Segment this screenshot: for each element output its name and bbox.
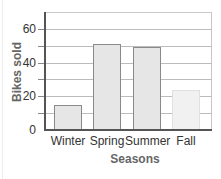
gridline	[44, 63, 212, 64]
y-axis-line	[44, 12, 46, 131]
gridline	[44, 79, 212, 80]
x-tick-label-summer: Summer	[125, 134, 169, 148]
gridline	[44, 29, 212, 30]
y-tick-label-0: 0	[6, 124, 36, 136]
y-axis-title: Bikes sold	[10, 37, 24, 107]
bar-summer	[133, 47, 161, 130]
x-tick-label-fall: Fall	[164, 134, 208, 148]
bar-spring	[93, 44, 121, 130]
x-tick-label-winter: Winter	[46, 134, 90, 148]
bar-winter	[54, 105, 82, 130]
x-axis-title: Seasons	[100, 152, 170, 166]
bar-fall	[172, 90, 200, 130]
y-tick-label-60: 60	[6, 23, 36, 35]
x-tick-label-spring: Spring	[85, 134, 129, 148]
x-axis-line	[44, 129, 212, 131]
frame-edge	[2, 0, 3, 179]
gridline	[44, 46, 212, 47]
